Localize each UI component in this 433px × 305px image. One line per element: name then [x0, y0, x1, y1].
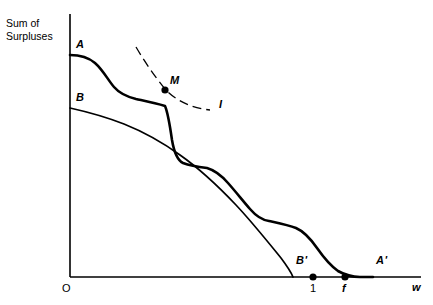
- label-curve-B: B: [76, 91, 84, 104]
- label-curve-A: A: [76, 38, 84, 51]
- y-axis-label-line1: Sum of: [6, 17, 39, 29]
- tick-label-1: 1: [310, 282, 316, 295]
- y-axis-label-line2: Surpluses: [6, 30, 53, 42]
- curve-A: [70, 55, 373, 277]
- y-axis-label: Sum ofSurpluses: [6, 17, 53, 43]
- point-marker-M: [161, 86, 168, 93]
- label-curve-A-prime: A': [376, 254, 388, 267]
- chart-canvas: [0, 0, 433, 305]
- label-curve-B-prime: B': [296, 254, 308, 267]
- figure-container: Sum ofSurpluses A B M I B' A' O 1 f w: [0, 0, 433, 305]
- origin-label: O: [62, 282, 71, 295]
- tick-dot-1: [309, 273, 316, 280]
- x-axis-label: w: [412, 281, 421, 294]
- tick-dot-f: [341, 273, 348, 280]
- tick-label-f: f: [342, 282, 346, 295]
- label-curve-I: I: [219, 98, 222, 111]
- label-point-M: M: [170, 74, 179, 87]
- curve-B: [70, 108, 293, 277]
